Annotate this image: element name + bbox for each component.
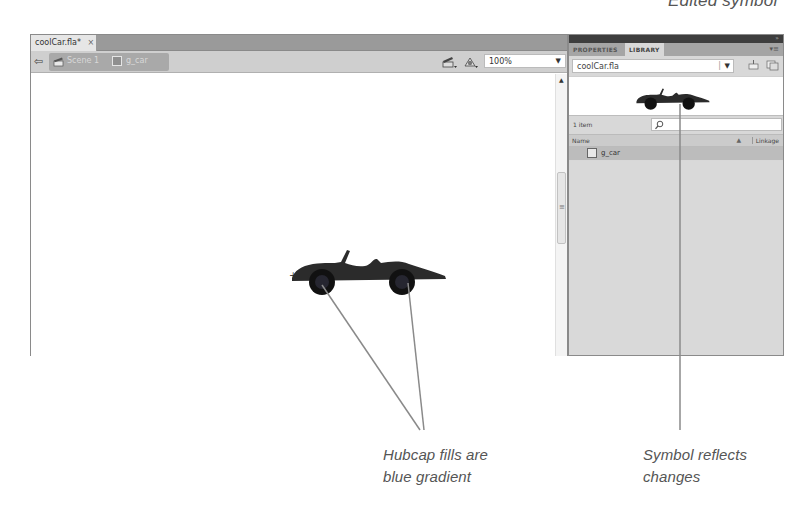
car-preview xyxy=(635,82,711,112)
graphic-symbol-icon xyxy=(112,56,122,66)
collapse-panel-icon[interactable]: » xyxy=(775,34,779,41)
library-column-header: Name ▲ Linkage xyxy=(569,134,783,147)
library-item-label: g_car xyxy=(601,149,620,157)
column-linkage[interactable]: Linkage xyxy=(752,137,779,144)
graphic-symbol-icon xyxy=(587,148,597,158)
symbol-preview xyxy=(569,76,783,116)
caption-symbol: Symbol reflects changes xyxy=(643,444,747,488)
document-tab[interactable]: coolCar.fla* × xyxy=(31,35,97,51)
new-library-panel-icon[interactable] xyxy=(766,60,779,71)
chevron-down-icon: ▼ xyxy=(725,62,730,70)
document-window: coolCar.fla* × ⇦ Scene 1 g_car 100% ▼ xyxy=(30,34,568,356)
breadcrumb: Scene 1 g_car xyxy=(49,53,169,71)
edit-bar: ⇦ Scene 1 g_car 100% ▼ xyxy=(31,51,567,73)
library-list-empty-area xyxy=(569,161,783,355)
library-file-dropdown[interactable]: coolCar.fla | ▼ xyxy=(572,59,734,73)
grip-icon: ≡ xyxy=(559,203,565,211)
scene-clapper-icon[interactable] xyxy=(53,56,64,67)
edit-scene-icon[interactable] xyxy=(442,55,458,69)
breadcrumb-symbol[interactable]: g_car xyxy=(126,56,148,65)
caption-symbol-line1: Symbol reflects xyxy=(643,444,747,466)
caption-hubcap-line2: blue gradient xyxy=(383,466,488,488)
car-symbol[interactable] xyxy=(289,238,449,298)
divider: | xyxy=(718,61,721,70)
document-tab-bar: coolCar.fla* × xyxy=(31,35,567,51)
tab-properties[interactable]: PROPERTIES xyxy=(569,43,622,56)
scroll-up-icon[interactable]: ▲ xyxy=(559,76,564,83)
library-search-input[interactable] xyxy=(651,118,782,131)
panel-menu-icon[interactable]: ▾≡ xyxy=(770,45,779,53)
vertical-scrollbar[interactable]: ▲ ≡ xyxy=(555,74,567,356)
document-tab-label: coolCar.fla* xyxy=(35,38,81,47)
close-tab-icon[interactable]: × xyxy=(87,38,94,47)
library-search-row: 1 item xyxy=(569,116,783,134)
sort-ascending-icon[interactable]: ▲ xyxy=(736,136,741,143)
library-panel: » PROPERTIES LIBRARY ▾≡ coolCar.fla | ▼ … xyxy=(568,34,784,356)
search-icon xyxy=(654,120,664,130)
library-item[interactable]: g_car xyxy=(569,147,783,160)
library-file-row: coolCar.fla | ▼ xyxy=(569,56,783,76)
item-count: 1 item xyxy=(573,121,592,128)
tab-library[interactable]: LIBRARY xyxy=(625,43,664,56)
stage-canvas[interactable]: + xyxy=(31,74,556,356)
column-name[interactable]: Name xyxy=(572,137,590,144)
pin-library-icon[interactable] xyxy=(747,60,760,71)
zoom-dropdown[interactable]: 100% ▼ xyxy=(484,54,566,68)
panel-titlebar: » xyxy=(569,35,783,43)
caption-hubcap-line1: Hubcap fills are xyxy=(383,444,488,466)
zoom-value: 100% xyxy=(489,57,512,66)
scrollbar-thumb[interactable]: ≡ xyxy=(557,172,566,244)
breadcrumb-scene[interactable]: Scene 1 xyxy=(67,56,99,65)
caption-edited-symbol: Edited symbol xyxy=(668,0,777,11)
caption-symbol-line2: changes xyxy=(643,466,747,488)
back-arrow-icon[interactable]: ⇦ xyxy=(34,55,46,68)
chevron-down-icon: ▼ xyxy=(556,57,561,65)
panel-tab-bar: PROPERTIES LIBRARY ▾≡ xyxy=(569,43,783,56)
edit-symbols-icon[interactable] xyxy=(463,55,479,69)
library-file-label: coolCar.fla xyxy=(577,62,619,71)
caption-hubcap: Hubcap fills are blue gradient xyxy=(383,444,488,488)
